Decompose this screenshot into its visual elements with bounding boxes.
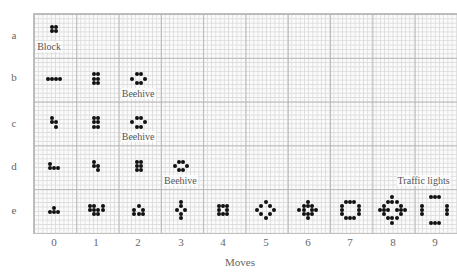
- life-pattern: [217, 204, 230, 217]
- live-cell: [54, 29, 58, 33]
- move-label-2: 2: [128, 236, 148, 248]
- live-cell: [259, 212, 263, 216]
- live-cell: [135, 72, 139, 76]
- live-cell: [183, 208, 187, 212]
- pattern-caption: Beehive: [163, 175, 198, 186]
- live-cell: [135, 81, 139, 85]
- move-label-8: 8: [383, 236, 403, 248]
- live-cell: [139, 125, 143, 129]
- life-pattern: [175, 200, 188, 221]
- live-cell: [135, 168, 139, 172]
- live-cell: [139, 116, 143, 120]
- live-cell: [340, 212, 344, 216]
- live-cell: [96, 125, 100, 129]
- life-pattern: [130, 72, 147, 85]
- move-label-3: 3: [171, 236, 191, 248]
- live-cell: [58, 77, 62, 81]
- life-pattern: [378, 195, 407, 224]
- move-label-9: 9: [425, 236, 445, 248]
- live-cell: [390, 200, 394, 204]
- live-cell: [306, 200, 310, 204]
- row-label-e: e: [4, 204, 24, 216]
- live-cell: [259, 204, 263, 208]
- live-cell: [96, 212, 100, 216]
- pattern-caption: Beehive: [121, 131, 156, 142]
- live-cell: [96, 72, 100, 76]
- live-cell: [395, 216, 399, 220]
- life-pattern: [340, 200, 361, 221]
- live-cell: [264, 216, 268, 220]
- live-cell: [437, 221, 441, 225]
- live-cell: [390, 221, 394, 225]
- live-cell: [135, 125, 139, 129]
- live-cell: [225, 212, 229, 216]
- live-cell: [139, 168, 143, 172]
- live-cell: [179, 200, 183, 204]
- live-cell: [130, 120, 134, 124]
- live-cell: [130, 77, 134, 81]
- live-cell: [141, 212, 145, 216]
- life-pattern: [46, 77, 63, 81]
- live-cell: [314, 208, 318, 212]
- life-pattern: [92, 72, 100, 85]
- pattern-caption: Beehive: [121, 88, 156, 99]
- life-pattern: [48, 162, 61, 170]
- live-cell: [272, 208, 276, 212]
- live-cell: [179, 216, 183, 220]
- live-cell: [268, 204, 272, 208]
- live-cell: [143, 120, 147, 124]
- live-cell: [390, 216, 394, 220]
- live-cell: [264, 200, 268, 204]
- live-cell: [306, 216, 310, 220]
- life-pattern: [135, 160, 143, 173]
- live-cell: [382, 212, 386, 216]
- row-label-a: a: [4, 29, 24, 41]
- move-label-0: 0: [44, 236, 64, 248]
- live-cell: [395, 200, 399, 204]
- live-cell: [175, 208, 179, 212]
- live-cell: [96, 77, 100, 81]
- live-cell: [420, 212, 424, 216]
- live-cell: [101, 208, 105, 212]
- life-pattern: [88, 204, 105, 217]
- live-cell: [139, 72, 143, 76]
- live-cell: [137, 204, 141, 208]
- live-cell: [132, 212, 136, 216]
- live-cell: [352, 200, 356, 204]
- live-cell: [445, 212, 449, 216]
- row-label-b: b: [4, 71, 24, 83]
- move-label-1: 1: [86, 236, 106, 248]
- x-axis-title: Moves: [225, 256, 255, 268]
- live-cell: [56, 210, 60, 214]
- live-cell: [352, 216, 356, 220]
- live-cell: [139, 81, 143, 85]
- live-cell: [386, 208, 390, 212]
- live-cell: [399, 212, 403, 216]
- live-cell: [297, 208, 301, 212]
- live-cell: [173, 164, 177, 168]
- move-label-7: 7: [340, 236, 360, 248]
- live-cell: [135, 116, 139, 120]
- live-cell: [96, 120, 100, 124]
- live-cell: [403, 208, 407, 212]
- live-cell: [56, 166, 60, 170]
- life-pattern: [255, 200, 276, 221]
- row-label-d: d: [4, 160, 24, 172]
- row-label-c: c: [4, 117, 24, 129]
- life-pattern: [92, 160, 100, 173]
- live-cell: [437, 195, 441, 199]
- live-cell: [255, 208, 259, 212]
- live-cell: [179, 204, 183, 208]
- life-pattern: [50, 25, 58, 33]
- live-cell: [181, 168, 185, 172]
- live-cell: [181, 160, 185, 164]
- live-cell: [143, 77, 147, 81]
- move-label-6: 6: [298, 236, 318, 248]
- pattern-caption: Traffic lights: [397, 175, 451, 186]
- live-cell: [357, 212, 361, 216]
- live-cell: [390, 195, 394, 199]
- live-cell: [96, 81, 100, 85]
- life-pattern: [130, 116, 147, 129]
- live-cell: [268, 212, 272, 216]
- life-pattern: [420, 195, 449, 224]
